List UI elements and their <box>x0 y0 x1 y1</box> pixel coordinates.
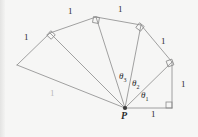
spoke-p-v2 <box>125 25 141 108</box>
leg-v4-v5 <box>17 33 50 65</box>
length-label-top-right: 1 <box>118 5 123 14</box>
angle-label-theta-1: θ1 <box>141 91 148 102</box>
angle-label-theta-2: θ2 <box>132 79 139 90</box>
length-label-hypotenuse-faded: 1 <box>50 89 55 98</box>
leg-lines <box>17 17 172 108</box>
length-label-right: 1 <box>181 80 186 89</box>
leg-v1-v2 <box>141 25 172 62</box>
spoke-p-v3 <box>96 17 125 108</box>
spoke-lines <box>17 17 172 108</box>
length-label-top-left: 1 <box>68 7 73 16</box>
spoke-p-v4 <box>50 33 125 108</box>
leg-v3-v4 <box>50 17 96 33</box>
length-label-upper-left: 1 <box>24 33 29 42</box>
angle-label-theta-3: θ3 <box>119 72 126 83</box>
spoke-p-v5 <box>17 65 125 108</box>
apex-point-label: P <box>121 111 127 121</box>
leg-v2-v3 <box>96 17 141 25</box>
right-angle-icon-v1 <box>166 59 174 67</box>
angle-label-theta-1-sub: 1 <box>145 96 148 102</box>
length-label-base: 1 <box>151 110 156 119</box>
spiral-diagram <box>0 0 198 137</box>
right-angle-icon-v0 <box>166 102 172 108</box>
angle-label-theta-3-sub: 3 <box>123 77 126 83</box>
theodorus-spiral-figure: 1 1 1 1 1 1 1 P θ1 θ2 θ3 <box>0 0 198 137</box>
angle-label-theta-2-sub: 2 <box>136 84 139 90</box>
length-label-upper-right: 1 <box>161 37 166 46</box>
